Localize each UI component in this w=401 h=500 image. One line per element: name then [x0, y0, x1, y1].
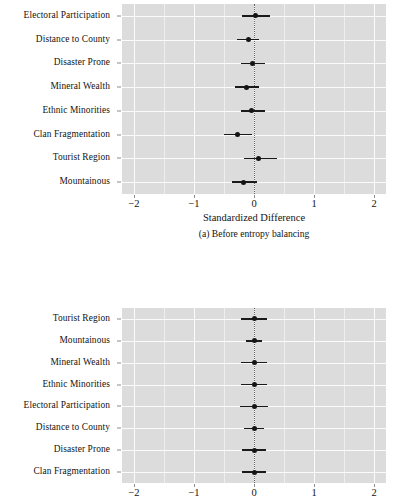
estimate-point: [252, 360, 257, 365]
x-axis-tick-label: −2: [128, 199, 139, 210]
y-axis-tick-mark: [117, 384, 121, 385]
panel-b: Tourist RegionMountainousMineral WealthE…: [0, 268, 401, 488]
gridline-minor-vertical: [344, 4, 345, 194]
y-axis-category-label: Electoral Participation: [24, 402, 110, 411]
x-axis-tick-label: −1: [188, 199, 199, 210]
y-axis-tick-mark: [117, 340, 121, 341]
gridline-major-vertical: [134, 4, 135, 194]
gridline-major-vertical: [374, 4, 375, 194]
gridline-major-vertical: [194, 4, 195, 194]
estimate-point: [250, 61, 255, 66]
estimate-point: [252, 448, 257, 453]
x-axis-tick-label: 2: [371, 488, 376, 499]
gridline-minor-vertical: [164, 4, 165, 194]
y-axis-category-label: Tourist Region: [53, 314, 110, 323]
gridline-major-vertical: [374, 308, 375, 483]
gridline-major-vertical: [194, 308, 195, 483]
y-axis-tick-mark: [117, 472, 121, 473]
y-axis-category-label: Distance to County: [36, 424, 110, 433]
y-axis-tick-mark: [117, 428, 121, 429]
estimate-point: [241, 180, 246, 185]
estimate-point: [252, 470, 257, 475]
y-axis-category-label: Disaster Prone: [54, 59, 110, 68]
x-axis-tick-label: 0: [251, 199, 256, 210]
gridline-minor-vertical: [164, 308, 165, 483]
x-axis-tick-label: 1: [311, 199, 316, 210]
y-axis-category-label: Clan Fragmentation: [33, 130, 110, 139]
y-axis-category-label: Ethnic Minorities: [42, 380, 110, 389]
estimate-point: [252, 338, 257, 343]
x-axis-tick-label: 2: [371, 199, 376, 210]
x-axis-tick-label: −2: [128, 488, 139, 499]
estimate-point: [253, 13, 258, 18]
y-axis-tick-mark: [117, 63, 121, 64]
y-axis-category-label: Mineral Wealth: [50, 82, 110, 91]
panel-a-y-axis-labels: Electoral ParticipationDistance to Count…: [0, 0, 118, 232]
y-axis-category-label: Disaster Prone: [54, 445, 110, 454]
y-axis-tick-mark: [117, 362, 121, 363]
panel-b-plot-area: [122, 308, 386, 483]
estimate-point: [252, 426, 257, 431]
y-axis-category-label: Clan Fragmentation: [33, 467, 110, 476]
y-axis-category-label: Tourist Region: [53, 154, 110, 163]
y-axis-tick-mark: [117, 182, 121, 183]
y-axis-category-label: Distance to County: [36, 35, 110, 44]
y-axis-category-label: Mountainous: [59, 336, 110, 345]
gridline-major-vertical: [134, 308, 135, 483]
y-axis-category-label: Electoral Participation: [24, 11, 110, 20]
estimate-point: [256, 156, 261, 161]
y-axis-category-label: Mineral Wealth: [50, 358, 110, 367]
y-axis-tick-mark: [117, 450, 121, 451]
y-axis-tick-mark: [117, 87, 121, 88]
x-axis-tick-label: 0: [251, 488, 256, 499]
panel-a-plot-area: [122, 4, 386, 194]
gridline-major-vertical: [314, 308, 315, 483]
y-axis-category-label: Mountainous: [59, 177, 110, 186]
y-axis-tick-mark: [117, 110, 121, 111]
gridline-major-vertical: [314, 4, 315, 194]
gridline-minor-vertical: [284, 308, 285, 483]
y-axis-tick-mark: [117, 158, 121, 159]
gridline-minor-vertical: [224, 308, 225, 483]
estimate-point: [246, 37, 251, 42]
x-axis-tick-label: 1: [311, 488, 316, 499]
y-axis-tick-mark: [117, 318, 121, 319]
gridline-minor-vertical: [224, 4, 225, 194]
panel-a-caption: (a) Before entropy balancing: [122, 229, 386, 239]
panel-a: Electoral ParticipationDistance to Count…: [0, 0, 401, 232]
panel-b-y-axis-labels: Tourist RegionMountainousMineral WealthE…: [0, 268, 118, 488]
y-axis-tick-mark: [117, 406, 121, 407]
y-axis-tick-mark: [117, 15, 121, 16]
estimate-point: [252, 404, 257, 409]
zero-reference-line: [254, 308, 256, 483]
y-axis-tick-mark: [117, 134, 121, 135]
gridline-minor-vertical: [284, 4, 285, 194]
panel-b-x-axis: −2−1012: [122, 484, 386, 500]
estimate-point: [252, 382, 257, 387]
y-axis-category-label: Ethnic Minorities: [42, 106, 110, 115]
estimate-point: [244, 85, 249, 90]
x-axis-tick-label: −1: [188, 488, 199, 499]
y-axis-tick-mark: [117, 39, 121, 40]
gridline-minor-vertical: [344, 308, 345, 483]
zero-reference-line: [254, 4, 256, 194]
panel-a-x-axis-title: Standardized Difference: [122, 213, 386, 224]
estimate-point: [235, 132, 240, 137]
